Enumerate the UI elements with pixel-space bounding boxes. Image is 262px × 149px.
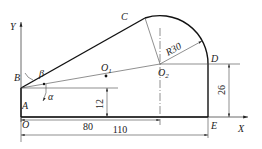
dimension-12-label: 12: [94, 99, 105, 109]
arc-CD: [145, 16, 208, 64]
radius-line-C-O2: [145, 18, 160, 64]
dimension-110-label: 110: [113, 124, 128, 135]
svg-text:O2: O2: [158, 67, 169, 80]
point-D-label: D: [210, 53, 219, 64]
point-O2: O2: [158, 67, 169, 80]
dimension-12: 12: [94, 88, 107, 117]
dimension-26: 26: [216, 64, 229, 117]
construction-diagram: Y X R30 12 26 80: [0, 0, 262, 149]
dimension-80-label: 80: [83, 121, 93, 132]
point-A-label: A: [21, 100, 29, 111]
x-axis-label: X: [237, 123, 245, 134]
point-B-label: B: [14, 72, 20, 83]
y-axis-label: Y: [10, 21, 17, 32]
beta-label: β: [38, 68, 44, 79]
angle-alpha: α: [43, 83, 54, 102]
point-O-label: O: [22, 119, 29, 130]
dimension-110: 110: [21, 124, 208, 135]
dimension-80: 80: [21, 120, 160, 132]
alpha-label: α: [48, 91, 54, 102]
angle-beta: β: [25, 68, 44, 80]
point-O1: O1: [101, 62, 112, 77]
radius-dimension: R30: [160, 40, 202, 64]
construction-lines: [21, 18, 240, 142]
point-E-label: E: [210, 120, 217, 131]
radius-label: R30: [163, 40, 183, 58]
point-C-label: C: [121, 11, 128, 22]
dimension-26-label: 26: [216, 85, 227, 95]
